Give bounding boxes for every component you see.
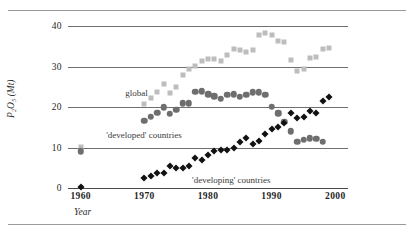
- data-point: [256, 32, 261, 37]
- series-label-0: global: [125, 88, 148, 98]
- data-point: [148, 95, 153, 100]
- data-point: [287, 128, 294, 135]
- y-tick-label-30: 30: [52, 62, 62, 72]
- y-tick-label-20: 20: [52, 102, 62, 112]
- data-point: [173, 107, 180, 114]
- data-point: [192, 154, 199, 161]
- data-point: [174, 85, 179, 90]
- data-point: [212, 56, 217, 61]
- data-point: [295, 68, 300, 73]
- gridline-40: [68, 26, 348, 27]
- data-point: [141, 118, 148, 125]
- data-point: [198, 157, 205, 164]
- data-point: [263, 31, 268, 36]
- data-point: [154, 109, 161, 116]
- x-tick-label-2000: 2000: [325, 191, 346, 201]
- gridline-10: [68, 148, 348, 149]
- data-point: [307, 56, 312, 61]
- data-point: [206, 57, 211, 62]
- data-point: [319, 138, 326, 145]
- figure-top-rule: [8, 10, 406, 11]
- data-point: [161, 81, 166, 86]
- y-axis-tick-labels: 010203040: [30, 18, 62, 188]
- data-point: [262, 130, 269, 137]
- y-tick-label-10: 10: [52, 143, 62, 153]
- data-point: [269, 33, 274, 38]
- data-point: [193, 63, 198, 68]
- data-point: [243, 135, 250, 142]
- gridline-20: [68, 107, 348, 108]
- data-point: [231, 46, 236, 51]
- figure: 010203040 P₂O₅ (Mt) global'developed' co…: [0, 0, 414, 235]
- y-tick-label-40: 40: [52, 21, 62, 31]
- x-tick-label-1990: 1990: [261, 191, 282, 201]
- data-point: [155, 89, 160, 94]
- data-point: [225, 52, 230, 57]
- x-axis-tick-labels: 19601970198019902000: [68, 191, 348, 205]
- data-point: [217, 95, 224, 102]
- y-axis-title: P₂O₅ (Mt): [6, 79, 16, 118]
- series-label-1: 'developed' countries: [106, 130, 181, 140]
- data-point: [142, 102, 147, 107]
- data-point: [300, 114, 307, 121]
- data-point: [180, 73, 185, 78]
- data-point: [294, 114, 301, 121]
- x-axis-title: Year: [74, 207, 91, 217]
- gridline-30: [68, 67, 348, 68]
- data-point: [199, 58, 204, 63]
- data-point: [268, 103, 275, 110]
- data-point: [185, 163, 192, 170]
- data-point: [325, 94, 332, 101]
- data-point: [301, 67, 306, 72]
- x-tick-label-1970: 1970: [134, 191, 155, 201]
- data-point: [244, 49, 249, 54]
- data-point: [147, 114, 154, 121]
- data-point: [250, 47, 255, 52]
- data-point: [287, 110, 294, 117]
- data-point: [186, 67, 191, 72]
- x-tick-label-1980: 1980: [198, 191, 219, 201]
- data-point: [236, 138, 243, 145]
- data-point: [218, 58, 223, 63]
- data-point: [288, 58, 293, 63]
- data-point: [314, 54, 319, 59]
- data-point: [313, 109, 320, 116]
- data-point: [204, 152, 211, 159]
- data-point: [282, 40, 287, 45]
- data-point: [230, 144, 237, 151]
- plot-area: global'developed' countries'developing' …: [68, 18, 348, 188]
- data-point: [77, 148, 84, 155]
- figure-bottom-rule: [8, 224, 406, 225]
- data-point: [320, 46, 325, 51]
- data-point: [274, 123, 281, 130]
- data-point: [275, 110, 282, 117]
- data-point: [160, 169, 167, 176]
- data-point: [276, 38, 281, 43]
- data-point: [319, 97, 326, 104]
- x-axis-line: [68, 188, 348, 189]
- data-point: [160, 104, 167, 111]
- data-point: [262, 92, 269, 99]
- data-point: [186, 100, 193, 107]
- y-tick-label-0: 0: [57, 183, 62, 193]
- data-point: [326, 46, 331, 51]
- data-point: [167, 91, 172, 96]
- series-label-2: 'developing' countries: [192, 175, 270, 185]
- data-point: [167, 111, 174, 118]
- data-point: [237, 48, 242, 53]
- x-tick-label-1960: 1960: [70, 191, 91, 201]
